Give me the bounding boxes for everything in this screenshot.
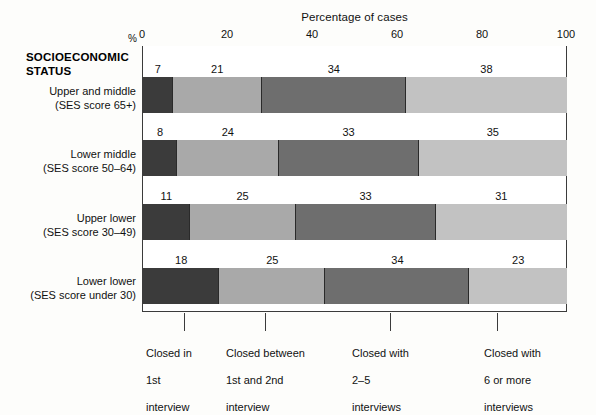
category-label-line1: Lower lower	[10, 274, 136, 288]
bar-segment-value: 33	[343, 126, 355, 138]
bar-segment	[143, 204, 190, 240]
category-axis-heading: SOCIOECONOMIC STATUS	[26, 50, 129, 78]
bar-segment	[262, 77, 406, 113]
bar-segment	[177, 140, 279, 176]
legend-line3: interview	[146, 401, 192, 415]
legend-line3: interviews	[352, 401, 409, 415]
bar-segment-value: 34	[391, 254, 403, 266]
legend-line2: 6 or more	[484, 374, 541, 388]
chart-title: Percentage of cases	[142, 11, 567, 23]
category-label-lower-lower: Lower lower (SES score under 30)	[10, 274, 136, 302]
category-axis-heading-line2: STATUS	[26, 64, 129, 78]
legend-line1: Closed between	[226, 347, 305, 361]
bar-segment	[419, 140, 567, 176]
legend-line1: Closed with	[352, 347, 409, 361]
bar-segment	[325, 268, 469, 304]
category-label-line2: (SES score 65+)	[10, 98, 136, 112]
bar-segment-value: 21	[211, 63, 223, 75]
legend-line2: 1st and 2nd	[226, 374, 305, 388]
legend-line3: interview	[226, 401, 305, 415]
bar-segment-value: 7	[155, 63, 161, 75]
bar-segment-value: 25	[237, 190, 249, 202]
category-label-line2: (SES score 30–49)	[10, 225, 136, 239]
bar-segment-value: 35	[487, 126, 499, 138]
bar-segment-value: 31	[495, 190, 507, 202]
bar-segment	[406, 77, 567, 113]
percent-symbol: %	[128, 33, 137, 44]
bar-segment	[469, 268, 567, 304]
x-tick-label-20: 20	[221, 28, 233, 40]
legend-line3: interviews	[484, 401, 541, 415]
bar-segment-value: 8	[157, 126, 163, 138]
bar-segment-value: 18	[175, 254, 187, 266]
legend-line1: Closed with	[484, 347, 541, 361]
bar-segment-value: 23	[512, 254, 524, 266]
legend-item-closed-1st-interview: Closed in 1st interview	[146, 333, 192, 415]
bar-segment-value: 34	[328, 63, 340, 75]
bar-segment	[296, 204, 436, 240]
bar-segment-value: 33	[359, 190, 371, 202]
bar-segment	[219, 268, 325, 304]
legend-tick-2	[265, 313, 266, 331]
category-label-line1: Lower middle	[10, 147, 136, 161]
bar-segment	[173, 77, 262, 113]
bar-segment-value: 24	[222, 126, 234, 138]
category-label-line1: Upper and middle	[10, 84, 136, 98]
category-label-line2: (SES score under 30)	[10, 288, 136, 302]
category-label-upper-and-middle: Upper and middle (SES score 65+)	[10, 84, 136, 112]
bar-segment	[436, 204, 567, 240]
x-tick-label-80: 80	[476, 28, 488, 40]
category-label-line2: (SES score 50–64)	[10, 161, 136, 175]
bar-segment-value: 11	[161, 190, 172, 202]
legend-line2: 2–5	[352, 374, 409, 388]
bar-segment-value: 25	[266, 254, 278, 266]
legend-tick-3	[390, 313, 391, 331]
legend-item-closed-between-1st-2nd: Closed between 1st and 2nd interview	[226, 333, 305, 415]
x-tick-label-60: 60	[391, 28, 403, 40]
legend-line2: 1st	[146, 374, 192, 388]
category-label-lower-middle: Lower middle (SES score 50–64)	[10, 147, 136, 175]
category-label-upper-lower: Upper lower (SES score 30–49)	[10, 211, 136, 239]
bar-segment	[279, 140, 419, 176]
legend-tick-4	[497, 313, 498, 331]
legend-tick-1	[184, 313, 185, 331]
bar-segment	[143, 140, 177, 176]
category-label-line1: Upper lower	[10, 211, 136, 225]
legend-item-closed-2-5-interviews: Closed with 2–5 interviews	[352, 333, 409, 415]
x-tick-label-40: 40	[306, 28, 318, 40]
bar-segment	[190, 204, 296, 240]
category-axis-heading-line1: SOCIOECONOMIC	[26, 50, 129, 64]
bar-segment-value: 38	[480, 63, 492, 75]
x-tick-label-0: 0	[139, 28, 145, 40]
legend-line1: Closed in	[146, 347, 192, 361]
x-tick-label-100: 100	[557, 28, 575, 40]
bar-segment	[143, 268, 219, 304]
bar-segment	[143, 77, 173, 113]
legend-item-closed-6-or-more-interviews: Closed with 6 or more interviews	[484, 333, 541, 415]
